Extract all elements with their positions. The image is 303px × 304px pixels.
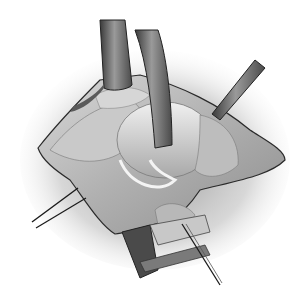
surgical-illustration <box>0 0 303 304</box>
illustration-svg <box>0 0 303 304</box>
retractor-top-left-icon <box>100 20 132 90</box>
